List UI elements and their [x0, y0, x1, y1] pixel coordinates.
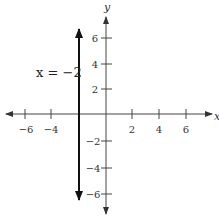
x-tick-label: −4 [44, 124, 59, 135]
x-tick-label: 4 [156, 124, 162, 135]
y-tick-label: 4 [92, 59, 98, 70]
y-tick-label: 6 [92, 33, 98, 44]
x-tick-label: −6 [19, 124, 34, 135]
x-tick-label: 6 [183, 124, 189, 135]
x-axis: −6 −4 2 4 6 x [6, 109, 219, 135]
y-axis-label: y [103, 1, 111, 14]
y-tick-label: −4 [86, 163, 101, 174]
y-tick-label: 2 [92, 84, 98, 95]
equation-label: x = −2 [36, 65, 82, 80]
coordinate-plane: −6 −4 2 4 6 x 6 4 2 −2 −4 −6 y x = −2 [0, 0, 219, 216]
x-tick-label: 2 [129, 124, 135, 135]
x-axis-label: x [214, 110, 219, 123]
y-axis: 6 4 2 −2 −4 −6 y [86, 1, 112, 214]
y-tick-label: −6 [86, 189, 101, 200]
y-tick-label: −2 [86, 136, 101, 147]
